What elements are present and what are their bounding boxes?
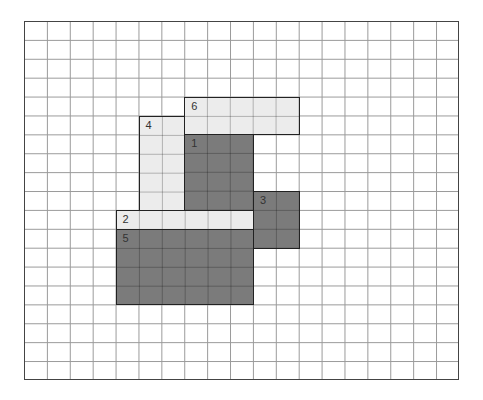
block-label: 5 [123,232,129,244]
block-3: 3 [253,191,300,249]
block-label: 6 [191,100,197,112]
block-1: 1 [184,134,254,211]
block-6: 6 [184,97,300,136]
block-label: 4 [146,119,152,131]
block-2: 2 [116,210,254,230]
block-5: 5 [116,229,254,306]
block-label: 2 [123,213,129,225]
block-label: 3 [260,194,266,206]
block-label: 1 [191,137,197,149]
block-4: 4 [139,116,186,212]
